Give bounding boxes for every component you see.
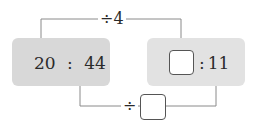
ratio-colon: : (67, 53, 73, 73)
ratio-antecedent: 20 (34, 53, 56, 73)
original-ratio: 20 : 44 (34, 53, 106, 73)
top-operation-label: ÷4 (98, 10, 126, 28)
ratio-consequent: 11 (208, 53, 230, 73)
simplified-ratio-box (147, 38, 245, 86)
bottom-operation-symbol: ÷ (121, 97, 138, 115)
answer-blank-antecedent[interactable] (169, 50, 194, 75)
answer-blank-divisor[interactable] (140, 94, 166, 120)
simplified-ratio-tail: :11 (199, 53, 229, 73)
ratio-colon: : (199, 53, 205, 73)
ratio-consequent: 44 (84, 53, 106, 73)
